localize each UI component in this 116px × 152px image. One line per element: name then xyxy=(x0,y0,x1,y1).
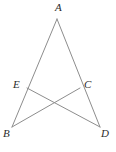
point-label-B: B xyxy=(3,128,10,139)
point-label-C: C xyxy=(84,79,91,90)
point-label-D: D xyxy=(101,128,109,139)
segment-ED xyxy=(27,88,100,127)
segment-layer xyxy=(12,19,100,127)
point-label-A: A xyxy=(55,2,62,13)
segment-CB xyxy=(12,88,80,127)
segment-AB xyxy=(12,19,57,127)
figure-canvas xyxy=(0,0,116,152)
point-label-E: E xyxy=(13,79,20,90)
segment-AD xyxy=(57,19,100,127)
geometry-figure: A E C B D xyxy=(0,0,116,152)
